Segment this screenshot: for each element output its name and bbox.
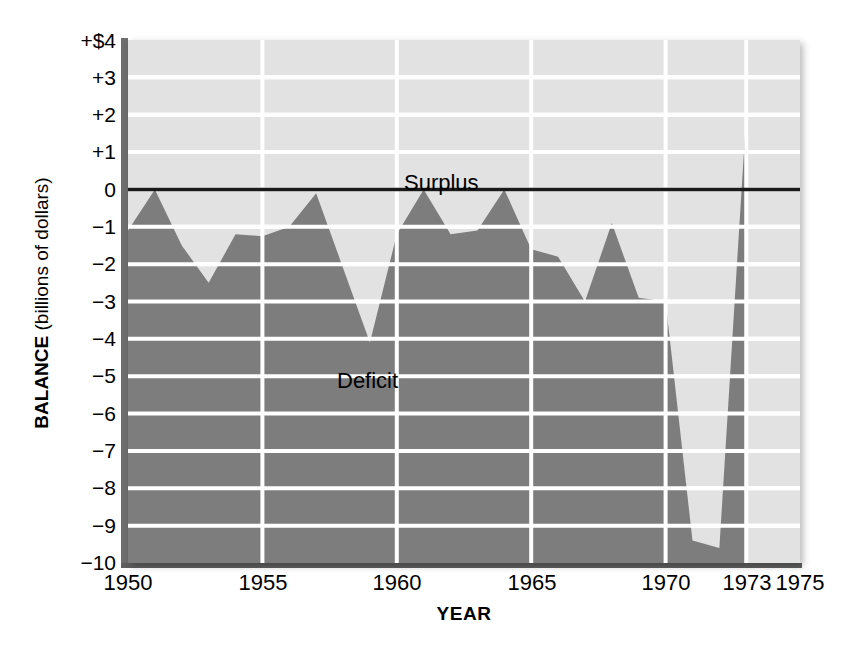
y-tick-label: −8 [52, 477, 116, 498]
x-tick-label: 1970 [642, 570, 691, 596]
y-axis-title: BALANCE (billions of dollars) [31, 123, 53, 483]
plot-area [128, 40, 800, 563]
x-tick-label: 1975 [776, 570, 825, 596]
x-axis-spine [121, 563, 802, 568]
y-tick-label: +2 [52, 104, 116, 125]
y-axis-title-strong: BALANCE [31, 336, 52, 429]
x-tick-label: 1973 [723, 570, 772, 596]
area-chart-graphic [128, 40, 800, 563]
x-tick-label: 1965 [508, 570, 557, 596]
y-tick-label: −6 [52, 403, 116, 424]
y-tick-label: −5 [52, 365, 116, 386]
y-tick-label: −2 [52, 253, 116, 274]
plot-inner [128, 40, 800, 563]
y-tick-label: −4 [52, 328, 116, 349]
x-tick-label: 1960 [373, 570, 422, 596]
y-axis-spine [121, 38, 128, 565]
y-tick-label: −3 [52, 291, 116, 312]
y-tick-label: −9 [52, 515, 116, 536]
y-axis-title-rest: (billions of dollars) [31, 177, 52, 335]
y-tick-label: 0 [52, 179, 116, 200]
x-axis-title: YEAR [128, 603, 800, 625]
chart-page: +$4 +3 +2 +1 0 −1 −2 −3 −4 −5 −6 −7 −8 −… [0, 0, 867, 649]
annotation-deficit: Deficit [337, 368, 398, 394]
y-tick-label: +1 [52, 141, 116, 162]
x-tick-label: 1950 [104, 570, 153, 596]
x-tick-label: 1955 [239, 570, 288, 596]
annotation-surplus: Surplus [404, 170, 479, 196]
y-tick-label: −1 [52, 216, 116, 237]
y-tick-label: +3 [52, 67, 116, 88]
y-tick-label: −7 [52, 440, 116, 461]
y-tick-label: +$4 [52, 30, 116, 51]
